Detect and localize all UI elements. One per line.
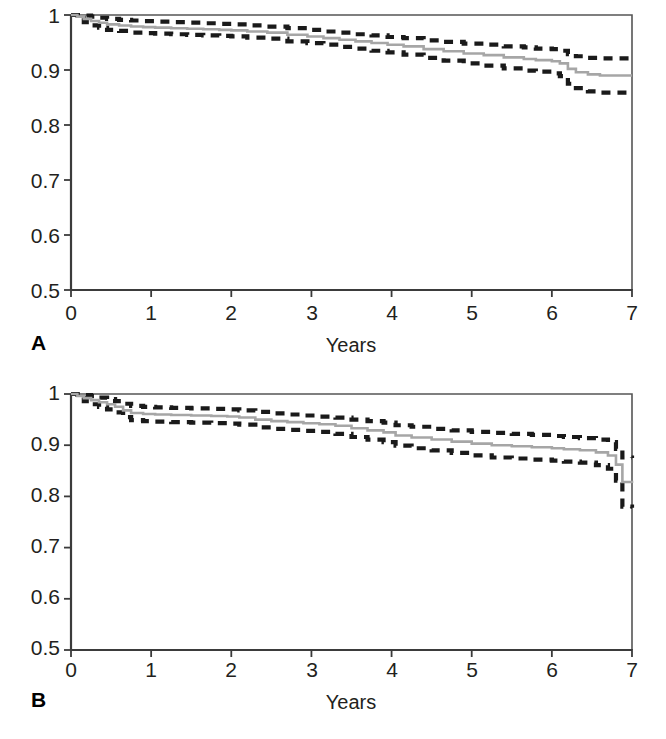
panel-b-xaxis-title: Years (251, 691, 451, 714)
panel-b-ytick-0_7: 0.7 (8, 534, 60, 558)
panel-a-ytick-0_5: 0.5 (8, 279, 60, 303)
panel-a: 1 0.9 0.8 0.7 0.6 0.5 0 1 2 3 4 5 6 7 Ye… (0, 0, 666, 370)
panel-b-xtick-1: 1 (136, 658, 166, 682)
figure-container: 1 0.9 0.8 0.7 0.6 0.5 0 1 2 3 4 5 6 7 Ye… (0, 0, 666, 739)
panel-b-xtick-2: 2 (216, 658, 246, 682)
panel-a-ytick-1: 1 (8, 4, 60, 28)
panel-b-ytick-1: 1 (8, 381, 60, 405)
panel-a-xtick-7: 7 (617, 301, 647, 325)
panel-a-ytick-0_6: 0.6 (8, 224, 60, 248)
panel-b-xtick-5: 5 (457, 658, 487, 682)
panel-a-ytick-0_8: 0.8 (8, 114, 60, 138)
panel-b-xtick-4: 4 (377, 658, 407, 682)
panel-b-xtick-6: 6 (537, 658, 567, 682)
panel-a-xtick-3: 3 (297, 301, 327, 325)
panel-a-xtick-2: 2 (216, 301, 246, 325)
panel-b-plot (0, 369, 666, 739)
panel-a-xaxis-title: Years (251, 334, 451, 357)
panel-b-xtick-0: 0 (56, 658, 86, 682)
panel-a-xtick-5: 5 (457, 301, 487, 325)
panel-a-xtick-6: 6 (537, 301, 567, 325)
panel-a-xtick-1: 1 (136, 301, 166, 325)
panel-b-letter: B (31, 688, 46, 712)
panel-b-ytick-0_8: 0.8 (8, 483, 60, 507)
panel-b-xtick-3: 3 (297, 658, 327, 682)
panel-a-xtick-0: 0 (56, 301, 86, 325)
panel-b-ytick-0_9: 0.9 (8, 432, 60, 456)
panel-a-letter: A (31, 331, 46, 355)
panel-b-ytick-0_5: 0.5 (8, 636, 60, 660)
panel-a-ytick-0_7: 0.7 (8, 169, 60, 193)
panel-b: 1 0.9 0.8 0.7 0.6 0.5 0 1 2 3 4 5 6 7 Ye… (0, 369, 666, 739)
panel-b-ytick-0_6: 0.6 (8, 585, 60, 609)
panel-b-xtick-7: 7 (617, 658, 647, 682)
panel-a-xtick-4: 4 (377, 301, 407, 325)
panel-a-ytick-0_9: 0.9 (8, 59, 60, 83)
